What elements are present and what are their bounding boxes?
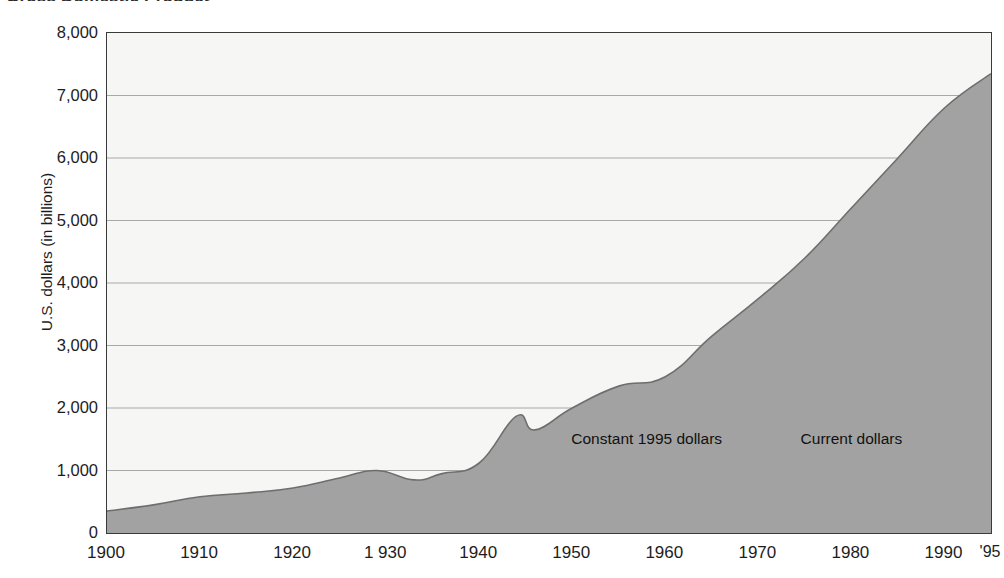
x-tick-label: 1910 (180, 543, 218, 563)
x-tick-label: 1980 (831, 543, 869, 563)
x-tick-label: 1970 (738, 543, 776, 563)
y-axis-tick-labels: 01,0002,0003,0004,0005,0006,0007,0008,00… (0, 0, 98, 578)
x-tick-label: 1900 (87, 543, 125, 563)
chart-plot-svg (107, 33, 991, 533)
y-tick-label: 6,000 (6, 148, 98, 167)
x-tick-label: 1920 (273, 543, 311, 563)
y-tick-label: 7,000 (6, 85, 98, 104)
y-tick-label: 0 (6, 523, 98, 542)
x-tick-label: '95 (980, 543, 1001, 561)
chart-figure: Gross Domestic Product U.S. dollars (in … (0, 0, 1004, 578)
x-tick-label: 1950 (552, 543, 590, 563)
plot-area: Constant 1995 dollars Current dollars (106, 32, 992, 534)
y-tick-label: 3,000 (6, 335, 98, 354)
x-tick-label: 1 930 (364, 543, 407, 563)
x-tick-label: 1990 (925, 543, 963, 563)
x-tick-label: 1940 (459, 543, 497, 563)
x-axis-tick-labels: 1900191019201 93019401950196019701980199… (0, 543, 1004, 573)
y-tick-label: 8,000 (6, 23, 98, 42)
annotation-current-dollars: Current dollars (801, 430, 903, 448)
y-tick-label: 2,000 (6, 398, 98, 417)
x-tick-label: 1960 (645, 543, 683, 563)
y-tick-label: 1,000 (6, 460, 98, 479)
y-tick-label: 5,000 (6, 210, 98, 229)
annotation-constant-dollars: Constant 1995 dollars (571, 430, 722, 448)
area-series-gdp (107, 74, 991, 533)
y-tick-label: 4,000 (6, 273, 98, 292)
